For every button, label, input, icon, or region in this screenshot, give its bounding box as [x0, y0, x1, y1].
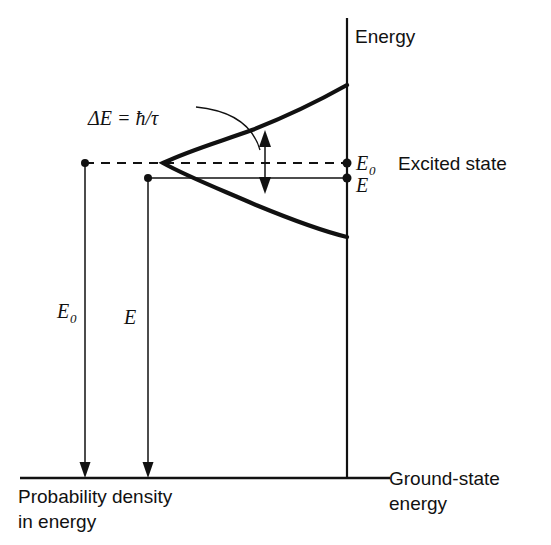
- e-right-label: E: [355, 174, 368, 196]
- probability-density-label-line2: in energy: [18, 511, 97, 532]
- energy-axis-label: Energy: [355, 26, 416, 47]
- e0-axis-dot: [343, 159, 352, 168]
- excited-state-label: Excited state: [398, 153, 507, 174]
- linewidth-arrow-head-down: [259, 177, 271, 194]
- e-axis-dot: [343, 174, 352, 183]
- lorentzian-curve: [163, 85, 347, 237]
- natural-linewidth-diagram: Energy Excited state Ground-state energy…: [0, 0, 551, 545]
- e0-left-label-subscript: 0: [70, 311, 77, 326]
- linewidth-arrow-head-up: [259, 130, 271, 147]
- probability-density-label-line1: Probability density: [18, 486, 173, 507]
- e0-measure-arrow-head: [80, 462, 91, 478]
- e0-right-label-subscript: 0: [369, 163, 376, 178]
- e-measure-arrow-head: [143, 462, 154, 478]
- ground-state-label-line1: Ground-state: [389, 468, 500, 489]
- e0-left-label-base: E: [56, 300, 69, 322]
- delta-e-annotation-label: ΔE = ħ/τ: [87, 107, 159, 129]
- e0-left-label: E 0: [56, 300, 77, 326]
- e0-right-label-base: E: [355, 152, 368, 174]
- ground-state-label-line2: energy: [389, 493, 448, 514]
- e-left-label: E: [123, 306, 136, 328]
